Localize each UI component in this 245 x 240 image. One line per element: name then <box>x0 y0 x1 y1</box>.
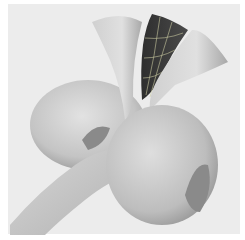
image-frame <box>0 0 245 240</box>
3d-surface-render <box>0 0 245 240</box>
